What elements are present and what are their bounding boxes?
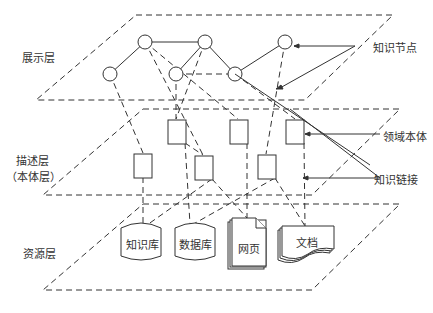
node-links <box>110 42 285 74</box>
knowledge-base-label: 知识库 <box>126 236 159 252</box>
ontology-boxes <box>134 120 304 180</box>
domain-ontology-callout: 领域本体 <box>383 128 427 144</box>
presentation-plane <box>36 15 393 100</box>
knowledge-node-callout: 知识节点 <box>373 39 417 55</box>
mapping-lines <box>110 42 305 230</box>
resource-plane <box>43 204 400 290</box>
database-label: 数据库 <box>179 236 212 252</box>
webpage-label: 网页 <box>238 240 260 256</box>
presentation-layer-label: 展示层 <box>22 49 55 65</box>
description-layer-label: 描述层 <box>16 152 49 168</box>
knowledge-link-callout: 知识链接 <box>374 171 418 187</box>
resource-layer-label: 资源层 <box>23 245 56 261</box>
architecture-diagram <box>0 0 433 313</box>
description-layer-sublabel: （本体层） <box>6 168 61 184</box>
document-label: 文档 <box>296 234 318 250</box>
